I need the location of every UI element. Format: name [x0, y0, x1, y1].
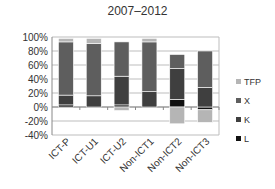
bar-segment-l: [198, 107, 213, 110]
bar-segment-tfp: [142, 38, 157, 42]
bar-segment-tfp: [170, 107, 185, 124]
legend-swatch: [236, 136, 241, 141]
y-tick-label: 60%: [28, 60, 48, 71]
bar-segment-tfp: [198, 110, 213, 123]
bar-segment-l: [58, 105, 73, 107]
stacked-bar-chart: 100%80%60%40%20%0%-20%-40%ICT-PICT-U1ICT…: [0, 0, 275, 189]
legend-label: L: [244, 134, 249, 144]
legend-item-x: X: [236, 91, 261, 110]
y-tick-label: 40%: [28, 74, 48, 85]
bar-segment-k: [58, 95, 73, 105]
legend-item-l: L: [236, 129, 261, 148]
y-tick-label: 80%: [28, 46, 48, 57]
legend-label: X: [244, 96, 250, 106]
legend-item-tfp: TFP: [236, 72, 261, 91]
x-tick-label: ICT-P: [46, 135, 72, 161]
y-tick-label: 0%: [34, 102, 49, 113]
bar-segment-x: [170, 55, 185, 69]
legend-label: K: [244, 115, 250, 125]
bar-segment-x: [58, 42, 73, 95]
y-tick-label: -40%: [25, 130, 48, 141]
legend: TFPXKL: [236, 72, 261, 148]
y-tick-label: -20%: [25, 116, 48, 127]
bar-segment-x: [86, 43, 101, 96]
bar-segment-x: [142, 42, 157, 92]
bar-segment-x: [114, 42, 129, 76]
bar-segment-x: [198, 51, 213, 87]
legend-swatch: [236, 98, 241, 103]
bar-segment-k: [198, 87, 213, 107]
legend-label: TFP: [244, 77, 261, 87]
bar-segment-k: [170, 69, 185, 100]
bar-segment-tfp: [114, 107, 129, 111]
legend-swatch: [236, 79, 241, 84]
bar-segment-l: [114, 105, 129, 107]
bar-segment-l: [170, 99, 185, 107]
bar-segment-tfp: [58, 38, 73, 42]
bar-segment-tfp: [86, 38, 101, 43]
x-tick-label: ICT-U1: [70, 135, 100, 165]
y-tick-label: 100%: [22, 32, 48, 43]
y-tick-label: 20%: [28, 88, 48, 99]
legend-swatch: [236, 117, 241, 122]
bar-segment-k: [114, 76, 129, 105]
bar-segment-k: [142, 92, 157, 107]
bar-segment-k: [86, 96, 101, 107]
legend-item-k: K: [236, 110, 261, 129]
